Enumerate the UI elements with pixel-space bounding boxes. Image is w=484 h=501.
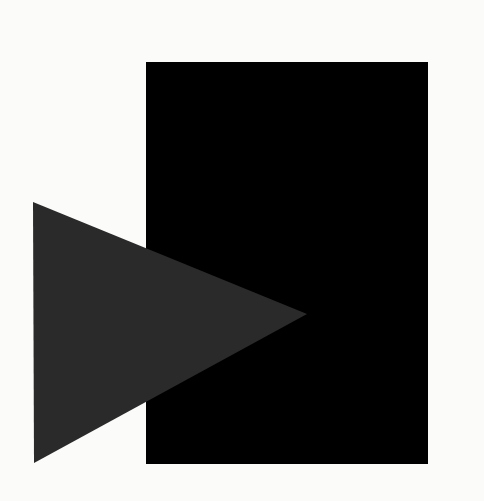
black-rectangle — [146, 62, 428, 464]
artwork-canvas — [0, 0, 484, 501]
composition — [0, 0, 484, 501]
